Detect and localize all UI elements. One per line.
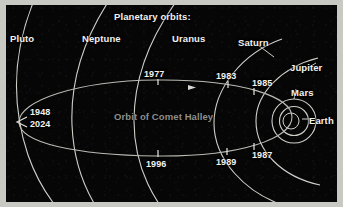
planet-label-neptune: Neptune [82, 33, 121, 44]
planet-label-mars: Mars [291, 87, 314, 98]
year-marker-1989: 1989 [216, 157, 236, 167]
orbit-direction-arrow [188, 85, 196, 90]
year-marker-1996: 1996 [146, 159, 166, 169]
diagram-plate: Planetary orbits: Pluto Neptune Uranus S… [6, 5, 337, 202]
comet-orbit-label: Orbit of Comet Halley [114, 111, 213, 122]
year-marker-1983: 1983 [216, 71, 236, 81]
saturn-orbit-arc [214, 39, 288, 202]
year-marker-1985: 1985 [252, 78, 272, 88]
year-marker-1977: 1977 [144, 69, 164, 79]
planet-label-uranus: Uranus [172, 33, 205, 44]
orbit-diagram-figure: Planetary orbits: Pluto Neptune Uranus S… [0, 0, 343, 207]
planet-label-jupiter: Jupiter [290, 62, 322, 73]
diagram-title: Planetary orbits: [114, 11, 191, 22]
aphelion-year-1948: 1948 [30, 107, 50, 118]
planet-label-earth: Earth [309, 115, 334, 126]
planet-label-pluto: Pluto [10, 33, 34, 44]
planet-label-saturn: Saturn [238, 37, 269, 48]
aphelion-year-2024: 2024 [30, 119, 50, 130]
year-marker-1987: 1987 [252, 150, 272, 160]
